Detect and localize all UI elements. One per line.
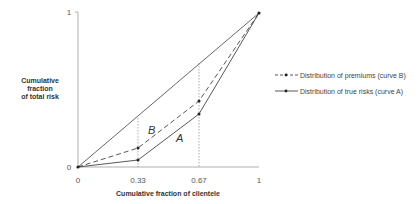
legend-item-premiums: Distribution of premiums (curve B) bbox=[275, 72, 406, 80]
x-tick-label-033: 0.33 bbox=[130, 176, 146, 185]
axes bbox=[75, 12, 259, 167]
marker-end bbox=[257, 11, 260, 14]
y-axis-title-line3: of total risk bbox=[21, 93, 59, 100]
legend-item-true-risks: Distribution of true risks (curve A) bbox=[275, 88, 403, 96]
y-tick-label-0: 0 bbox=[67, 163, 72, 172]
curve-b-label: B bbox=[148, 124, 155, 136]
marker-a-067 bbox=[198, 113, 201, 116]
marker-b-033 bbox=[137, 147, 140, 150]
x-tick-label-067: 0.67 bbox=[191, 176, 207, 185]
marker-origin bbox=[76, 165, 79, 168]
legend-label-premiums: Distribution of premiums (curve B) bbox=[300, 72, 406, 80]
legend-label-true-risks: Distribution of true risks (curve A) bbox=[300, 88, 403, 96]
y-axis-title-line2: fraction bbox=[27, 85, 53, 92]
x-axis-title: Cumulative fraction of clientele bbox=[116, 190, 220, 197]
equality-line bbox=[78, 13, 259, 167]
marker-b-067 bbox=[198, 100, 201, 103]
legend: Distribution of premiums (curve B) Distr… bbox=[275, 72, 406, 96]
y-tick-label-1: 1 bbox=[67, 8, 72, 17]
curve-a-label: A bbox=[175, 132, 183, 144]
x-tick-label-1: 1 bbox=[257, 176, 262, 185]
marker-a-033 bbox=[137, 159, 140, 162]
y-axis-title-line1: Cumulative bbox=[21, 77, 59, 84]
lorenz-chart: 1 0 0 0.33 0.67 1 Cumulative fraction of… bbox=[0, 0, 418, 204]
x-tick-label-0: 0 bbox=[76, 176, 81, 185]
